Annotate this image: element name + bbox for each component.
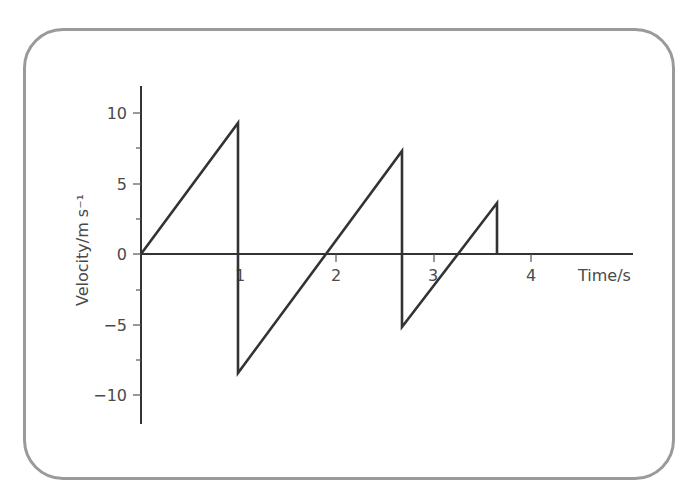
x-tick-label-1: 1	[235, 266, 245, 285]
velocity-line	[141, 123, 497, 373]
y-axis-title: Velocity/m s⁻¹	[73, 194, 92, 306]
x-ticks	[238, 254, 531, 262]
y-tick-label-10: 10	[107, 104, 127, 123]
x-tick-label-4: 4	[526, 266, 536, 285]
y-ticks	[133, 113, 141, 395]
y-tick-label-neg5: −5	[103, 316, 127, 335]
x-tick-label-2: 2	[331, 266, 341, 285]
velocity-time-chart: 10 5 0 −5 −10 1 2 3 4 Time/s Velocity/m …	[0, 0, 692, 498]
x-axis-title: Time/s	[577, 266, 631, 285]
y-tick-label-5: 5	[117, 175, 127, 194]
y-tick-label-neg10: −10	[93, 386, 127, 405]
y-tick-label-0: 0	[117, 245, 127, 264]
